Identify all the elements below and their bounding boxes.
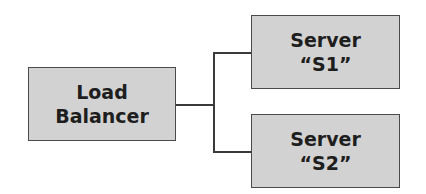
server-s1-label-line1: Server	[290, 28, 361, 52]
server-s1-node: Server “S1”	[251, 15, 400, 89]
server-s2-label-line1: Server	[290, 127, 361, 151]
connector-to-s1	[213, 52, 251, 54]
connector-vertical-spine	[213, 52, 215, 152]
load-balancer-label-line2: Balancer	[55, 104, 149, 128]
server-s2-label-line2: “S2”	[300, 151, 352, 175]
connector-to-s2	[213, 151, 251, 153]
server-s2-node: Server “S2”	[251, 114, 400, 188]
load-balancer-node: Load Balancer	[28, 67, 176, 141]
connector-lb-trunk	[176, 104, 214, 106]
load-balancer-label-line1: Load	[76, 80, 128, 104]
server-s1-label-line2: “S1”	[300, 52, 352, 76]
